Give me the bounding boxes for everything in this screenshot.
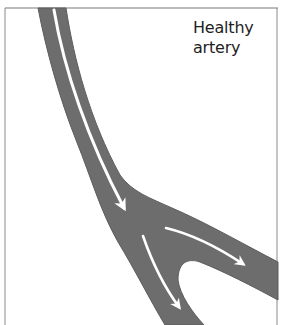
healthy-artery-diagram: Healthy artery (0, 0, 286, 325)
diagram-label: Healthy artery (193, 18, 254, 58)
label-line-2: artery (193, 38, 254, 58)
label-line-1: Healthy (193, 18, 254, 38)
